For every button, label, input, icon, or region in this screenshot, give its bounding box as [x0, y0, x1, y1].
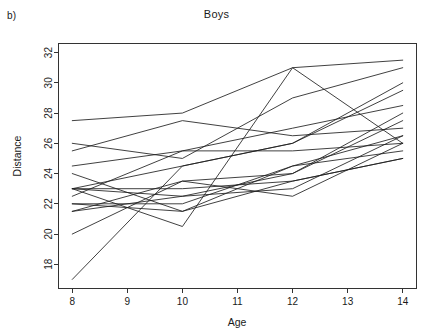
- y-axis-label: Distance: [11, 116, 23, 196]
- figure-panel: b) Boys Distance Age 8910111213141820222…: [0, 0, 433, 336]
- x-tick-label: 13: [342, 296, 354, 307]
- x-tick-label: 8: [69, 296, 75, 307]
- y-tick-label: 22: [43, 198, 54, 210]
- spaghetti-plot: 8910111213141820222426283032: [0, 0, 433, 336]
- series-line: [72, 83, 402, 189]
- series-group: [72, 60, 402, 279]
- series-line: [72, 136, 402, 204]
- x-tick-label: 10: [177, 296, 189, 307]
- x-tick-label: 11: [232, 296, 243, 307]
- y-tick-label: 18: [43, 258, 54, 270]
- x-tick-label: 14: [397, 296, 409, 307]
- y-tick-label: 28: [43, 107, 54, 119]
- y-tick-label: 32: [43, 47, 54, 59]
- y-tick-label: 30: [43, 77, 54, 89]
- y-tick-label: 26: [43, 137, 54, 149]
- x-tick-label: 12: [287, 296, 299, 307]
- plot-box: [59, 44, 417, 289]
- y-tick-label: 24: [43, 168, 54, 180]
- x-tick-label: 9: [125, 296, 131, 307]
- series-line: [72, 60, 402, 120]
- series-line: [72, 158, 402, 188]
- y-tick-label: 20: [43, 228, 54, 240]
- x-axis-label: Age: [58, 316, 416, 328]
- chart-title: Boys: [0, 8, 433, 21]
- axes-group: 8910111213141820222426283032: [43, 44, 417, 307]
